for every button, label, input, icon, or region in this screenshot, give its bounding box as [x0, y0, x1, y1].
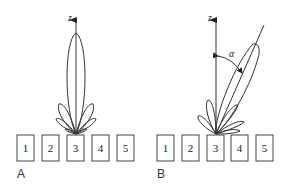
element-row-b: 1 2 3 4 5 — [157, 135, 273, 161]
alpha-label: α — [229, 48, 235, 59]
panel-label-b: B — [157, 167, 165, 181]
element-a-1-label: 1 — [23, 142, 29, 154]
element-b-5-label: 5 — [262, 142, 268, 154]
z-axis-label-b: z — [207, 12, 212, 23]
element-b-4-label: 4 — [237, 142, 243, 154]
z-axis-label-a: z — [67, 12, 72, 23]
side-lobe-b-2 — [198, 116, 216, 134]
element-row-a: 1 2 3 4 5 — [17, 135, 134, 161]
panel-a: z 1 2 3 4 5 A — [17, 12, 134, 181]
beam-direction-line — [216, 25, 264, 134]
element-a-2-label: 2 — [48, 142, 54, 154]
element-b-2-label: 2 — [188, 142, 194, 154]
diagram-canvas: z 1 2 3 4 5 A z — [0, 0, 288, 188]
panel-b: z α 1 2 3 4 5 B — [157, 12, 273, 181]
element-b-3-label: 3 — [213, 142, 219, 154]
panel-label-a: A — [17, 167, 25, 181]
element-a-5-label: 5 — [123, 142, 129, 154]
element-b-1-label: 1 — [163, 142, 169, 154]
element-a-4-label: 4 — [98, 142, 104, 154]
element-a-3-label: 3 — [73, 142, 79, 154]
